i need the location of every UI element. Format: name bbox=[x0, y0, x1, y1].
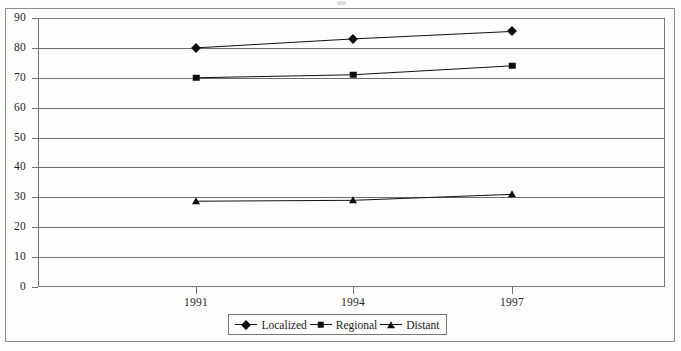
x-axis-tick-mark bbox=[353, 287, 354, 294]
triangle-marker bbox=[508, 190, 516, 197]
triangle-marker-icon bbox=[380, 320, 402, 330]
y-axis-tick-label: 20 bbox=[14, 221, 26, 233]
x-axis-tick-label: 1997 bbox=[500, 296, 524, 308]
square-marker bbox=[509, 63, 516, 70]
y-axis-tick-label: 60 bbox=[14, 102, 26, 114]
legend-label: Regional bbox=[336, 319, 378, 331]
y-axis-tick-label: 70 bbox=[14, 72, 26, 84]
x-axis-tick-label: 1991 bbox=[184, 296, 208, 308]
x-axis-tick-mark bbox=[196, 287, 197, 294]
y-axis-tick-label: 30 bbox=[14, 192, 26, 204]
diamond-marker-icon bbox=[235, 320, 257, 330]
triangle-marker bbox=[192, 197, 200, 204]
scan-artifact bbox=[337, 1, 346, 5]
square-marker bbox=[193, 75, 200, 82]
legend-item-regional[interactable]: Regional bbox=[310, 319, 378, 331]
y-axis-tick-label: 90 bbox=[14, 12, 26, 24]
x-axis-tick-mark bbox=[512, 287, 513, 294]
y-axis-tick-label: 10 bbox=[14, 251, 26, 263]
legend-item-localized[interactable]: Localized bbox=[235, 319, 306, 331]
y-axis-tick-label: 80 bbox=[14, 42, 26, 54]
triangle-marker bbox=[349, 196, 357, 203]
legend-item-distant[interactable]: Distant bbox=[380, 319, 439, 331]
legend-label: Localized bbox=[261, 319, 306, 331]
y-axis-tick-label: 0 bbox=[20, 281, 26, 293]
square-marker bbox=[350, 72, 357, 79]
x-axis-tick-label: 1994 bbox=[341, 296, 365, 308]
y-axis-tick-label: 40 bbox=[14, 162, 26, 174]
square-marker-icon bbox=[310, 320, 332, 330]
y-axis-tick-mark bbox=[32, 287, 38, 288]
chart-legend: LocalizedRegionalDistant bbox=[228, 314, 447, 335]
legend-label: Distant bbox=[406, 319, 439, 331]
series-lines bbox=[38, 18, 665, 287]
plot-area: 0102030405060708090 199119941997 bbox=[38, 18, 665, 287]
chart-figure: 0102030405060708090 199119941997 Localiz… bbox=[0, 0, 681, 351]
y-axis-tick-label: 50 bbox=[14, 132, 26, 144]
